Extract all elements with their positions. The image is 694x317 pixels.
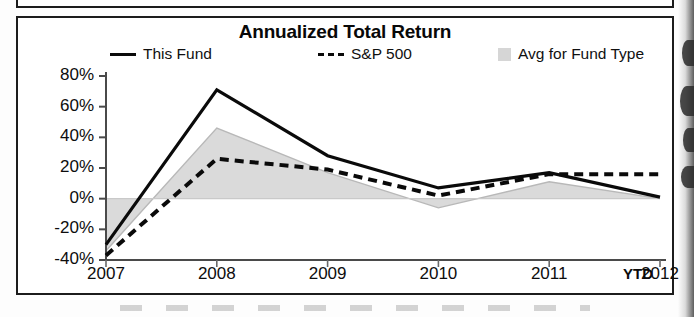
plot-area: 80%60%40%20%0%-20%-40% 20072008200920102…	[18, 18, 676, 297]
scan-noise-row	[120, 305, 590, 311]
ytd-note: YTD	[623, 265, 653, 282]
x-axis-tick-label: 2011	[514, 264, 584, 284]
screenshot-root: Annualized Total Return This Fund S&P 50…	[0, 0, 694, 317]
x-axis-tick-label: 2007	[71, 264, 141, 284]
scan-blob-2	[680, 86, 694, 116]
x-axis-tick-label: 2010	[403, 264, 473, 284]
scan-blob-4	[681, 166, 694, 188]
adjacent-panel-cropped	[16, 0, 674, 8]
y-axis-tick-label: 40%	[32, 126, 94, 146]
y-axis-tick-label: 80%	[32, 65, 94, 85]
y-axis-tick-label: 0%	[32, 188, 94, 208]
scan-blob-1	[682, 40, 694, 66]
y-axis-tick-label: -20%	[32, 218, 94, 238]
line-chart-svg	[18, 18, 676, 297]
x-axis-tick-label: 2009	[293, 264, 363, 284]
annualized-total-return-panel: Annualized Total Return This Fund S&P 50…	[16, 16, 674, 295]
y-axis-tick-label: 60%	[32, 96, 94, 116]
x-axis-tick-label: 2008	[182, 264, 252, 284]
scan-blob-3	[683, 128, 694, 152]
y-axis-tick-label: 20%	[32, 157, 94, 177]
